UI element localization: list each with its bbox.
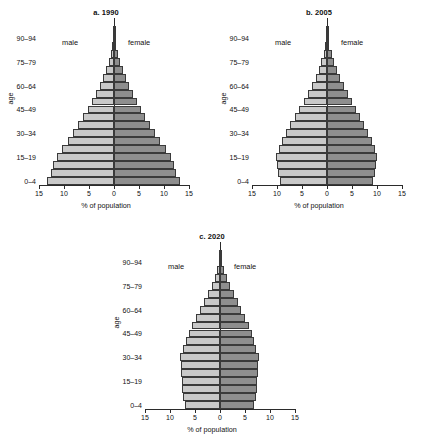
bar-female-45-49 <box>220 330 252 338</box>
x-tick-label: 10 <box>60 190 68 197</box>
x-tick <box>302 185 303 189</box>
bar-female-55-59 <box>327 90 348 98</box>
x-tick-label: 5 <box>350 190 354 197</box>
bar-male-0-4 <box>47 177 114 185</box>
bar-female-75-79 <box>220 282 230 290</box>
y-tick-label: 90–94 <box>17 34 36 41</box>
bar-female-15-19 <box>114 153 171 161</box>
x-tick <box>39 185 40 189</box>
bar-female-50-54 <box>114 98 137 106</box>
bar-male-5-9 <box>51 169 114 177</box>
x-tick-label: 0 <box>325 190 329 197</box>
bar-male-50-54 <box>304 98 328 106</box>
bar-male-75-79 <box>212 282 221 290</box>
bar-male-70-74 <box>319 66 328 74</box>
bar-female-5-9 <box>327 169 375 177</box>
bar-female-65-69 <box>220 298 238 306</box>
legend-female: female <box>128 38 150 47</box>
bar-female-90-94 <box>114 34 116 42</box>
bar-female-95-99 <box>327 26 329 34</box>
bar-male-5-9 <box>183 393 220 401</box>
bar-female-15-19 <box>327 153 377 161</box>
x-tick <box>139 185 140 189</box>
bar-male-40-44 <box>83 113 114 121</box>
bar-female-35-39 <box>114 121 150 129</box>
bar-male-25-29 <box>68 137 115 145</box>
bar-male-40-44 <box>186 337 221 345</box>
x-tick-label: 0 <box>218 414 222 421</box>
y-tick-label: 60–64 <box>230 82 249 89</box>
bar-female-0-4 <box>327 177 373 185</box>
y-tick-label: 15–19 <box>230 154 249 161</box>
x-tick-label: 5 <box>87 190 91 197</box>
x-tick <box>114 185 115 189</box>
bar-female-5-9 <box>220 393 256 401</box>
bar-female-30-34 <box>114 129 155 137</box>
bar-male-25-29 <box>181 361 221 369</box>
bar-male-25-29 <box>282 137 327 145</box>
bar-female-15-19 <box>220 377 257 385</box>
bar-male-0-4 <box>280 177 328 185</box>
bar-male-30-34 <box>286 129 327 137</box>
x-tick <box>402 185 403 189</box>
y-tick-label: 15–19 <box>17 154 36 161</box>
bar-female-85-89 <box>220 266 224 274</box>
bar-male-30-34 <box>180 353 220 361</box>
bar-female-20-24 <box>220 369 258 377</box>
bar-male-55-59 <box>196 314 220 322</box>
bar-male-60-64 <box>200 306 220 314</box>
bar-female-75-79 <box>114 58 120 66</box>
bar-male-60-64 <box>100 82 115 90</box>
bar-female-30-34 <box>327 129 368 137</box>
x-tick-label: 5 <box>300 190 304 197</box>
bar-male-30-34 <box>73 129 114 137</box>
bar-female-65-69 <box>114 74 126 82</box>
bar-female-60-64 <box>327 82 344 90</box>
x-tick-label: 10 <box>166 414 174 421</box>
bar-female-10-14 <box>220 385 257 393</box>
bar-male-45-49 <box>189 330 221 338</box>
y-tick-label: 30–34 <box>123 354 142 361</box>
plot-area-2020 <box>145 250 295 409</box>
bar-male-60-64 <box>312 82 327 90</box>
x-tick <box>164 185 165 189</box>
bar-female-95-99 <box>220 250 222 258</box>
bar-male-65-69 <box>103 74 114 82</box>
legend-male: male <box>62 38 78 47</box>
bar-male-15-19 <box>57 153 115 161</box>
bar-female-70-74 <box>327 66 337 74</box>
bar-female-10-14 <box>114 161 174 169</box>
bar-female-20-24 <box>114 145 166 153</box>
bar-female-0-4 <box>114 177 180 185</box>
y-tick-label: 75–79 <box>17 58 36 65</box>
bar-male-50-54 <box>92 98 114 106</box>
y-axis-labels: 90–9475–7960–6445–4930–3415–190–4 <box>0 2 36 202</box>
y-axis-labels: 90–9475–7960–6445–4930–3415–190–4 <box>213 2 249 202</box>
bar-female-55-59 <box>220 314 245 322</box>
y-tick-label: 75–79 <box>123 282 142 289</box>
bar-male-55-59 <box>308 90 327 98</box>
bar-female-45-49 <box>327 106 356 114</box>
x-axis-title: % of population <box>106 425 318 434</box>
legend-female: female <box>341 38 363 47</box>
x-tick-label: 0 <box>112 190 116 197</box>
bar-male-20-24 <box>62 145 114 153</box>
bar-female-70-74 <box>220 290 234 298</box>
x-tick-label: 10 <box>273 190 281 197</box>
bar-female-45-49 <box>114 106 141 114</box>
bar-female-65-69 <box>327 74 340 82</box>
y-tick-label: 30–34 <box>230 130 249 137</box>
x-axis-title: % of population <box>213 201 425 210</box>
x-tick-label: 15 <box>35 190 43 197</box>
bar-female-80-84 <box>327 50 332 58</box>
pyramid-panel-1990: a. 1990 age 90–9475–7960–6445–4930–3415–… <box>0 2 212 224</box>
bar-male-20-24 <box>181 369 220 377</box>
plot-area-2005 <box>252 26 402 185</box>
x-tick <box>189 185 190 189</box>
bar-male-0-4 <box>185 401 221 409</box>
y-tick-label: 75–79 <box>230 58 249 65</box>
bar-male-35-39 <box>290 121 327 129</box>
bar-female-20-24 <box>327 145 375 153</box>
bar-male-45-49 <box>299 106 327 114</box>
x-tick-label: 10 <box>266 414 274 421</box>
